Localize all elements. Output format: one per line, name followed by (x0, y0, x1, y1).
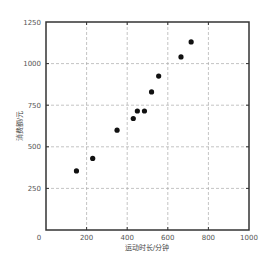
x-axis-label: 运动时长/分钟 (125, 243, 169, 252)
x-tick-label: 800 (202, 234, 215, 242)
data-point (135, 108, 140, 113)
data-point (156, 73, 161, 78)
data-point (178, 54, 183, 59)
plot-frame (46, 22, 249, 230)
x-tick-label: 1000 (240, 234, 258, 242)
data-point (114, 128, 119, 133)
data-point (131, 116, 136, 121)
x-tick-label: 600 (161, 234, 174, 242)
data-points (74, 39, 194, 173)
y-tick-label: 500 (28, 143, 41, 151)
y-tick-label: 1000 (23, 60, 41, 68)
gridlines (46, 22, 249, 230)
data-point (149, 89, 154, 94)
y-tick-labels: 25050075010001250 (23, 19, 41, 193)
data-point (74, 168, 79, 173)
x-tick-label: 400 (121, 234, 134, 242)
x-tick-labels: 02004006008001000 (37, 234, 258, 242)
x-tick-label: 0 (37, 234, 41, 242)
data-point (189, 39, 194, 44)
data-point (142, 108, 147, 113)
y-axis-label: 消费额/元 (15, 111, 24, 141)
y-tick-label: 750 (28, 102, 41, 110)
y-tick-label: 250 (28, 185, 41, 193)
scatter-chart: 02004006008001000 25050075010001250 运动时长… (0, 0, 272, 270)
y-tick-label: 1250 (23, 19, 41, 27)
x-tick-label: 200 (80, 234, 93, 242)
data-point (90, 156, 95, 161)
tick-marks (46, 22, 249, 230)
